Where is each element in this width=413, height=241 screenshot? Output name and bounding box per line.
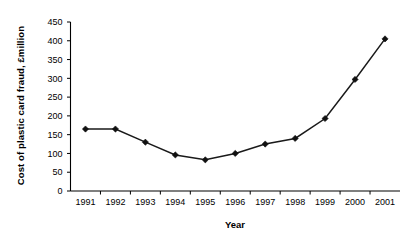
y-axis-tick-label: 400	[47, 36, 62, 46]
data-series-line	[85, 39, 385, 160]
data-point-marker	[112, 126, 118, 132]
y-axis-tick-label: 350	[47, 55, 62, 65]
data-point-marker	[82, 126, 88, 132]
x-axis-tick-labels: 1991199219931994199519961997199819992000…	[75, 197, 395, 207]
data-point-markers	[82, 36, 388, 163]
data-point-marker	[202, 157, 208, 163]
data-point-marker	[142, 139, 148, 145]
y-axis-tick-label: 150	[47, 130, 62, 140]
chart-plot-area: 050100150200250300350400450 199119921993…	[0, 0, 413, 241]
x-axis-tick-label: 1996	[225, 197, 245, 207]
x-axis-tick-label: 1998	[285, 197, 305, 207]
x-axis-tick-label: 1994	[165, 197, 185, 207]
x-axis-title: Year	[70, 219, 400, 230]
y-axis-tick-label: 250	[47, 92, 62, 102]
data-point-marker	[172, 152, 178, 158]
x-axis-tick-label: 1999	[315, 197, 335, 207]
y-axis-tick-label: 100	[47, 149, 62, 159]
y-axis-tick-label: 0	[57, 186, 62, 196]
y-axis-tick-label: 450	[47, 17, 62, 27]
x-axis-tick-label: 1992	[105, 197, 125, 207]
x-axis-tick-label: 1997	[255, 197, 275, 207]
x-axis-tick-label: 1993	[135, 197, 155, 207]
x-axis-tick-label: 1991	[75, 197, 95, 207]
x-axis-tick-label: 2001	[375, 197, 395, 207]
x-axis-tick-label: 2000	[345, 197, 365, 207]
data-point-marker	[262, 141, 268, 147]
y-axis-tick-labels: 050100150200250300350400450	[47, 17, 62, 196]
data-point-marker	[232, 150, 238, 156]
y-axis-tick-label: 200	[47, 111, 62, 121]
x-axis-tick-label: 1995	[195, 197, 215, 207]
y-axis-tick-label: 300	[47, 74, 62, 84]
line-chart-figure: Cost of plastic card fraud, £million 050…	[0, 0, 413, 241]
y-axis-tick-label: 50	[52, 167, 62, 177]
